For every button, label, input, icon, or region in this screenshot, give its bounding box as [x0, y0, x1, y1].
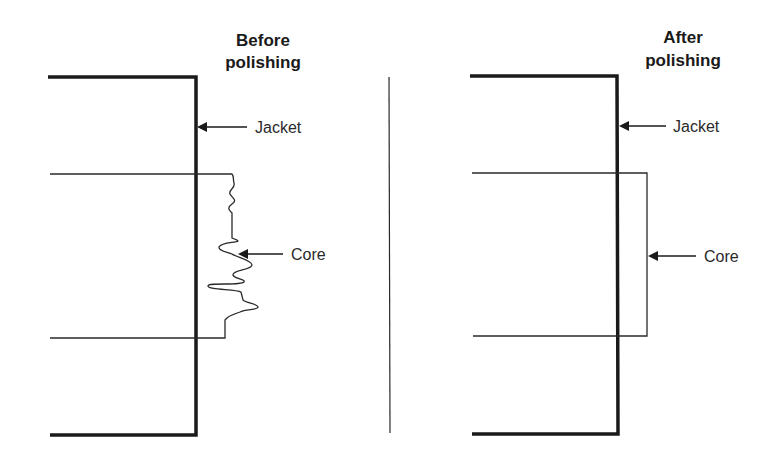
- after-jacket-outline: [470, 76, 618, 434]
- before-title-line1: Before: [236, 31, 290, 50]
- after-jacket-label: Jacket: [673, 118, 720, 135]
- before-jacket-outline: [48, 77, 196, 435]
- before-jacket-label: Jacket: [255, 119, 302, 136]
- before-jacket-arrowhead-icon: [197, 122, 207, 132]
- polishing-diagram: Before polishing Jacket Core After polis…: [0, 0, 775, 468]
- before-core-outline: [50, 174, 258, 338]
- after-polishing-panel: After polishing Jacket Core: [470, 28, 739, 434]
- after-core-arrowhead-icon: [648, 251, 658, 261]
- before-core-label: Core: [291, 246, 326, 263]
- after-jacket-arrowhead-icon: [619, 121, 629, 131]
- after-core-outline: [472, 173, 647, 336]
- after-title-line1: After: [663, 28, 703, 47]
- panel-divider: [389, 77, 390, 433]
- before-title-line2: polishing: [225, 53, 301, 72]
- after-title-line2: polishing: [645, 51, 721, 70]
- after-core-label: Core: [704, 248, 739, 265]
- before-polishing-panel: Before polishing Jacket Core: [48, 31, 326, 435]
